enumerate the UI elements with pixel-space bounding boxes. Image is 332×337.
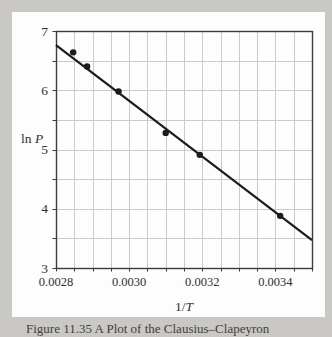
- x-tick-label: 0.0030: [112, 275, 146, 289]
- x-tick-label: 0.0032: [185, 275, 219, 289]
- data-point: [84, 63, 90, 69]
- y-tick-label: 6: [41, 83, 48, 98]
- data-point: [163, 130, 169, 136]
- x-tick-labels: 0.00280.00300.00320.0034: [39, 275, 294, 289]
- y-tick-labels: 76543: [41, 24, 48, 276]
- ln-p-vs-inverse-t-chart: 0.00280.00300.00320.003476543ln P1/T: [12, 12, 325, 317]
- y-tick-label: 4: [41, 201, 48, 216]
- data-point: [197, 152, 203, 158]
- y-axis-title: ln P: [21, 131, 43, 146]
- figure-panel: 0.00280.00300.00320.003476543ln P1/T: [12, 12, 325, 317]
- y-tick-label: 7: [41, 24, 48, 39]
- tick-marks: [53, 32, 313, 272]
- gridlines: [56, 31, 312, 268]
- figure-caption: Figure 11.35 A Plot of the Clausius–Clap…: [26, 321, 269, 337]
- y-tick-label: 3: [41, 261, 48, 276]
- data-point: [70, 49, 76, 55]
- data-point: [115, 88, 121, 94]
- data-point: [277, 213, 283, 219]
- x-axis-title: 1/T: [175, 299, 195, 314]
- x-tick-label: 0.0034: [258, 275, 293, 289]
- x-tick-label: 0.0028: [39, 275, 73, 289]
